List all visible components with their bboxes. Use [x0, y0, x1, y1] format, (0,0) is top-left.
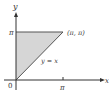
point-label: (π, π) — [67, 29, 85, 37]
region-diagram: y x 0 π π (π, π) y = x — [0, 0, 109, 107]
x-axis-label: x — [105, 77, 109, 85]
origin-label: 0 — [8, 82, 12, 90]
x-tick-pi-label: π — [59, 84, 65, 92]
y-axis-label: y — [12, 2, 18, 11]
line-label: y = x — [40, 57, 58, 65]
y-axis-arrow-icon — [14, 12, 18, 17]
y-tick-pi-label: π — [8, 29, 14, 37]
